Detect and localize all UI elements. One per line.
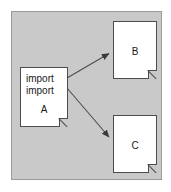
document-node-c[interactable]: C	[113, 115, 157, 173]
import-line-2: import	[26, 85, 54, 97]
document-a-label: A	[21, 104, 67, 115]
document-node-a[interactable]: import import A	[20, 67, 68, 127]
import-line-1: import	[26, 73, 54, 85]
document-a-body: import import	[26, 73, 54, 97]
edge-a-to-c	[67, 88, 109, 137]
document-c-label: C	[114, 140, 156, 151]
diagram-canvas: import import A B C	[0, 0, 171, 192]
document-node-b[interactable]: B	[113, 21, 157, 79]
page-fold-icon	[59, 118, 68, 127]
document-b-label: B	[114, 46, 156, 57]
diagram-panel: import import A B C	[11, 11, 162, 180]
page-fold-icon	[148, 70, 157, 79]
edge-a-to-b	[67, 54, 109, 79]
page-fold-icon	[148, 164, 157, 173]
